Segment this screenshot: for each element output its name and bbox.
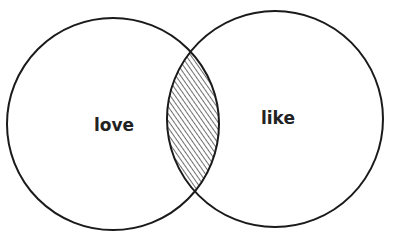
- venn-diagram: love like: [0, 0, 393, 246]
- love-label: love: [94, 115, 134, 135]
- like-label: like: [261, 108, 295, 128]
